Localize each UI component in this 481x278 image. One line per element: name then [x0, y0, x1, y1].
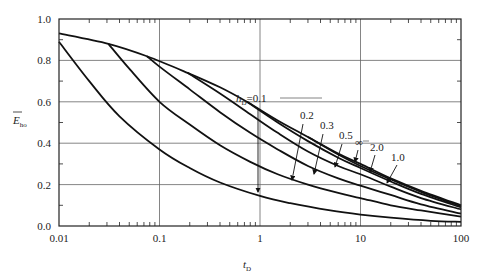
curve-label: 0.2: [300, 109, 314, 121]
curve-hd-2-0: [308, 137, 461, 206]
y-tick-label: 0.4: [37, 137, 51, 149]
svg-text:Eho: Eho: [12, 114, 27, 129]
x-tick-label: 0.1: [153, 232, 167, 244]
curve-hd-1-0: [247, 102, 461, 208]
x-tick-labels: 0.010.1110100: [49, 232, 469, 244]
y-tick-label: 0.2: [37, 179, 51, 191]
grid-lines: [59, 19, 461, 226]
y-tick-label: 0.6: [37, 96, 51, 108]
curve-label: 1.0: [391, 151, 405, 163]
curve-label: ∞: [355, 136, 363, 148]
y-tick-label: 1.0: [37, 13, 51, 25]
y-tick-label: 0.8: [37, 54, 51, 66]
x-tick-label: 1: [257, 232, 263, 244]
curve-hd-0-2: [108, 44, 461, 217]
curve-labels: hD=0.10.20.30.5∞2.01.0: [236, 92, 405, 163]
curve-label: 2.0: [370, 141, 384, 153]
y-tick-labels: 0.00.20.40.60.81.0: [37, 13, 51, 232]
annotation-arrow: [314, 134, 323, 174]
x-tick-label: 10: [355, 232, 367, 244]
x-axis-title: tD: [243, 258, 251, 273]
chart: 0.010.1110100 0.00.20.40.60.81.0 hD=0.10…: [0, 0, 481, 278]
annotation-arrow: [355, 150, 358, 162]
x-tick-label: 0.01: [49, 232, 68, 244]
y-tick-label: 0.0: [37, 220, 51, 232]
x-tick-label: 100: [453, 232, 470, 244]
curve-label: 0.3: [320, 119, 334, 131]
y-axis-title: Eho: [12, 112, 27, 129]
curve-label: 0.5: [339, 129, 353, 141]
